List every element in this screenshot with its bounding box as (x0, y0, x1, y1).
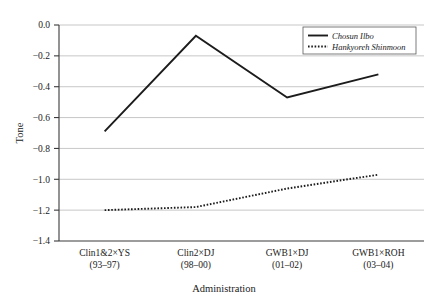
y-tick-label-6: −1.2 (33, 206, 50, 216)
x-tick-sublabel-3: (03–04) (363, 260, 393, 271)
series-hankyoreh-shinmoon (105, 175, 379, 210)
y-tick-label-1: −0.2 (33, 51, 50, 61)
legend-label-chosun-ilbo: Chosun Ilbo (332, 31, 374, 41)
legend-label-hankyoreh-shinmoon: Hankyoreh Shinmoon (331, 42, 406, 52)
x-tick-sublabel-1: (98–00) (181, 260, 211, 271)
x-tick-label-2: GWB1×DJ (266, 248, 309, 258)
x-tick-label-3: GWB1×ROH (352, 248, 404, 258)
y-tick-label-2: −0.4 (33, 82, 50, 92)
y-axis-title: Tone (14, 122, 25, 143)
x-tick-sublabel-2: (01–02) (272, 260, 302, 271)
axis-lines (59, 25, 424, 241)
x-tick-labels: Clin1&2×YS (93–97) Clin2×DJ (98–00) GWB1… (79, 248, 404, 271)
x-tick-label-1: Clin2×DJ (177, 248, 214, 258)
line-chart-figure: 0.0 −0.2 −0.4 −0.6 −0.8 −1.0 −1.2 −1.4 T… (0, 0, 441, 305)
legend: Chosun Ilbo Hankyoreh Shinmoon (303, 27, 416, 54)
y-tick-labels: 0.0 −0.2 −0.4 −0.6 −0.8 −1.0 −1.2 −1.4 (33, 20, 50, 246)
x-tick-sublabel-0: (93–97) (90, 260, 120, 271)
y-tickmarks (54, 25, 59, 241)
y-tick-label-3: −0.6 (33, 113, 50, 123)
y-tick-label-0: 0.0 (38, 20, 50, 30)
x-tick-label-0: Clin1&2×YS (79, 248, 130, 258)
y-tick-label-4: −0.8 (33, 144, 50, 154)
y-tick-label-7: −1.4 (33, 236, 50, 246)
x-axis-title: Administration (192, 283, 256, 294)
y-tick-label-5: −1.0 (33, 175, 50, 185)
series-line-dotted (105, 175, 379, 210)
